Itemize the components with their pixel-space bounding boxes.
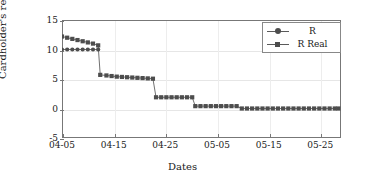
legend-entry-r: R <box>267 25 336 38</box>
data-point-square <box>175 95 179 99</box>
data-point-square <box>255 106 259 110</box>
data-point-square <box>336 106 340 110</box>
x-tick-label: 05-15 <box>256 141 282 150</box>
data-point-square <box>328 106 332 110</box>
data-point-square <box>65 36 69 40</box>
data-point-circle <box>75 47 79 51</box>
data-point-circle <box>86 47 90 51</box>
x-tick-label: 04-05 <box>49 141 75 150</box>
data-point-circle <box>62 47 64 51</box>
data-point-square <box>198 104 202 108</box>
data-point-square <box>120 75 124 79</box>
series-r <box>62 47 100 51</box>
data-point-square <box>169 95 173 99</box>
data-point-square <box>180 95 184 99</box>
x-tick-label: 05-25 <box>307 141 333 150</box>
data-point-square <box>229 104 233 108</box>
data-point-square <box>235 104 239 108</box>
data-point-square <box>214 104 218 108</box>
data-point-circle <box>65 47 69 51</box>
y-axis-title: Cardholder's reputation <box>0 0 8 79</box>
legend-label-r-real: R Real <box>289 39 336 50</box>
data-point-square <box>307 106 311 110</box>
data-point-square <box>75 38 79 42</box>
data-point-square <box>115 75 119 79</box>
data-point-square <box>98 73 102 77</box>
data-point-square <box>291 106 295 110</box>
data-point-square <box>224 104 228 108</box>
square-marker-icon <box>267 39 289 50</box>
y-tick-label: 10 <box>47 45 58 54</box>
data-point-square <box>141 76 145 80</box>
x-axis-title: Dates <box>0 162 365 172</box>
data-point-square <box>240 106 244 110</box>
y-tick-label: 15 <box>47 16 58 25</box>
chart-figure: Cardholder's reputation -5051015 04-0504… <box>0 0 365 184</box>
data-point-square <box>159 95 163 99</box>
legend-label-r: R <box>289 26 336 37</box>
circle-marker-icon <box>267 26 289 37</box>
data-point-square <box>193 104 197 108</box>
data-point-square <box>266 106 270 110</box>
data-point-square <box>250 106 254 110</box>
data-point-square <box>62 34 64 38</box>
data-point-square <box>322 106 326 110</box>
data-point-square <box>317 106 321 110</box>
y-tick-label: 0 <box>52 104 58 113</box>
data-point-square <box>146 76 150 80</box>
data-point-circle <box>81 47 85 51</box>
data-point-square <box>151 77 155 81</box>
data-point-square <box>135 76 139 80</box>
chart-legend: R R Real <box>262 22 341 53</box>
data-point-circle <box>91 47 95 51</box>
data-point-square <box>281 106 285 110</box>
x-tick-label: 05-05 <box>204 141 230 150</box>
data-point-circle <box>70 47 74 51</box>
legend-entry-r-real: R Real <box>267 38 336 51</box>
data-point-square <box>190 95 194 99</box>
x-tick-label: 04-15 <box>101 141 127 150</box>
x-tick-label: 04-25 <box>152 141 178 150</box>
data-point-square <box>91 42 95 46</box>
data-point-square <box>164 95 168 99</box>
data-point-square <box>154 95 158 99</box>
y-tick-label: 5 <box>52 75 58 84</box>
data-point-square <box>96 43 100 47</box>
data-point-square <box>333 106 337 110</box>
data-point-square <box>204 104 208 108</box>
data-point-square <box>110 74 114 78</box>
data-point-square <box>130 75 134 79</box>
data-point-square <box>185 95 189 99</box>
data-point-square <box>260 106 264 110</box>
data-point-square <box>245 106 249 110</box>
data-point-square <box>286 106 290 110</box>
data-point-square <box>104 73 108 77</box>
data-point-square <box>125 75 129 79</box>
data-point-square <box>297 106 301 110</box>
data-point-square <box>312 106 316 110</box>
data-point-square <box>86 40 90 44</box>
data-point-square <box>81 39 85 43</box>
data-point-square <box>209 104 213 108</box>
data-point-square <box>219 104 223 108</box>
data-point-square <box>302 106 306 110</box>
data-point-square <box>70 37 74 41</box>
data-point-square <box>276 106 280 110</box>
data-point-square <box>271 106 275 110</box>
